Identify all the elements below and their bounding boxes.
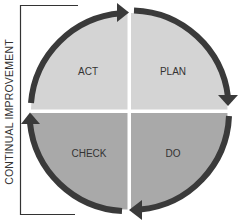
cycle-arrows bbox=[21, 3, 238, 220]
label-do: DO bbox=[166, 148, 181, 159]
quadrant-check bbox=[31, 113, 128, 210]
pdca-diagram: ACT PLAN CHECK DO bbox=[0, 0, 242, 224]
label-act: ACT bbox=[78, 66, 98, 77]
quadrant-plan bbox=[131, 13, 228, 110]
label-check: CHECK bbox=[71, 148, 106, 159]
continual-improvement-label: CONTINUAL IMPROVEMENT bbox=[3, 39, 15, 185]
label-plan: PLAN bbox=[160, 66, 186, 77]
